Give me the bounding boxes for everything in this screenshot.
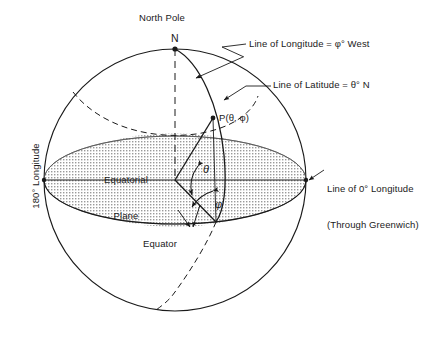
greenwich-longitude-line2: (Through Greenwich) — [327, 219, 419, 231]
longitude-180-label: 180° Longitude — [30, 133, 42, 219]
line-of-longitude-label: Line of Longitude = φ° West — [249, 38, 370, 50]
latitude-label-arrow — [224, 86, 246, 100]
theta-angle-label: θ — [203, 163, 209, 175]
greenwich-marker — [304, 178, 308, 182]
longitude-label-leader — [222, 47, 244, 57]
antimeridian-marker — [42, 178, 46, 182]
greenwich-label-arrow — [309, 170, 324, 180]
point-p-label: P(θ, φ) — [219, 112, 249, 124]
line-of-latitude-label: Line of Latitude = θ° N — [273, 79, 370, 91]
equatorial-plane-line1: Equatorial — [93, 174, 159, 186]
equator-label: Equator — [143, 238, 177, 250]
north-pole-label: North Pole — [139, 12, 185, 24]
pole-marker-label: N — [171, 32, 179, 44]
north-pole-marker — [172, 46, 177, 51]
longitude-label-arrow — [196, 57, 243, 78]
spherical-coordinates-figure: North Pole N Line of Longitude = φ° West… — [0, 0, 442, 337]
phi-angle-label: φ — [215, 198, 222, 210]
point-p-marker — [211, 116, 216, 121]
equatorial-plane-line2: Plane — [93, 210, 159, 222]
greenwich-longitude-line1: Line of 0° Longitude — [327, 183, 419, 195]
equatorial-plane-label: Equatorial Plane — [93, 150, 159, 246]
greenwich-longitude-label: Line of 0° Longitude (Through Greenwich) — [327, 159, 419, 255]
longitude-meridian-dashed — [156, 222, 216, 310]
longitude-label-leader-stub — [222, 44, 246, 47]
